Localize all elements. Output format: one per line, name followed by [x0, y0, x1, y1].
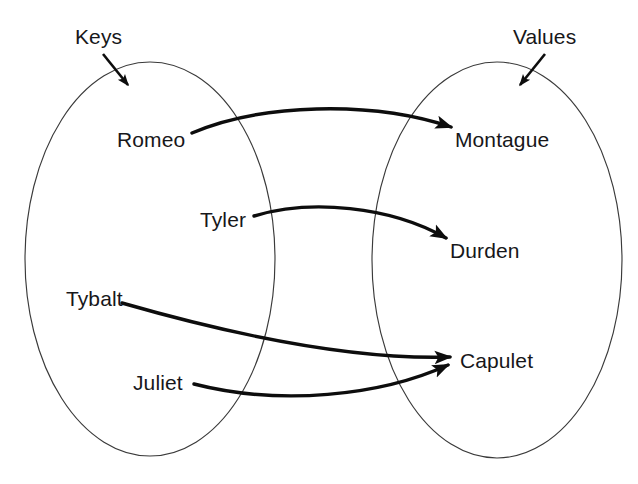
mapping-arrow-tybalt-to-capulet: [122, 303, 450, 357]
mapping-arrow-juliet-to-capulet: [194, 365, 448, 396]
diagram-canvas: [0, 0, 638, 484]
mapping-arrow-tyler-to-durden: [254, 207, 446, 238]
mapping-arrows-group: [122, 109, 451, 396]
key-item-tyler: Tyler: [200, 209, 246, 230]
key-item-tybalt: Tybalt: [66, 288, 123, 309]
values-pointer-arrow-icon: [520, 54, 545, 85]
mapping-arrow-romeo-to-montague: [192, 109, 451, 133]
keys-set-ellipse: [25, 62, 275, 456]
values-set-label: Values: [513, 26, 576, 47]
keys-set-label: Keys: [75, 26, 122, 47]
key-item-romeo: Romeo: [117, 129, 185, 150]
key-item-juliet: Juliet: [133, 372, 183, 393]
set-mapping-diagram: Keys Values Romeo Tyler Tybalt Juliet Mo…: [0, 0, 638, 484]
value-item-montague: Montague: [455, 129, 549, 150]
value-item-capulet: Capulet: [460, 350, 533, 371]
keys-pointer-arrow-icon: [103, 54, 128, 85]
value-item-durden: Durden: [450, 240, 519, 261]
